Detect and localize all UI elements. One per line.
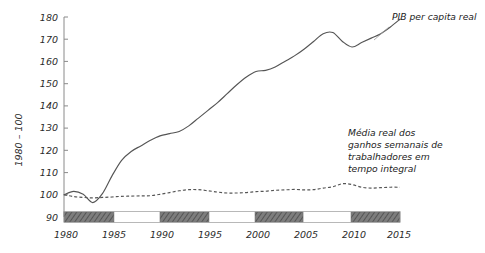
x-tick-label: 1985 [102,229,126,240]
recession-band [160,212,209,222]
recession-band [351,212,400,222]
x-tick-label: 2010 [342,229,366,240]
earnings-annotation-line: ganhos semanais de [348,139,443,150]
y-tick-label: 160 [40,56,58,67]
y-tick-marks [64,17,68,217]
earnings-annotation-line: trabalhadores em [348,151,430,162]
y-tick-labels: 180 170 160 150 140 130 120 110 100 90 [40,12,58,223]
gdp-annotation-leader [374,27,389,40]
x-tick-labels: 1980 1985 1990 1995 2000 2005 2010 2015 [54,229,411,240]
y-tick-label: 120 [40,145,58,156]
y-tick-label: 180 [40,12,58,23]
x-tick-label: 2015 [387,229,411,240]
recession-strip-frame [64,212,400,223]
gdp-annotation-label: PIB per capita real [392,11,477,22]
y-tick-label: 110 [40,167,58,178]
earnings-annotation-line: Média real dos [348,127,416,138]
y-axis-title: 1980 – 100 [13,113,24,166]
earnings-annotation-label: Média real dos ganhos semanais de trabal… [348,127,443,174]
y-tick-label: 100 [40,189,58,200]
x-tick-label: 2000 [246,229,270,240]
x-tick-label: 1980 [54,229,78,240]
x-tick-label: 1995 [198,229,222,240]
series-line-earnings [64,184,400,198]
line-chart: 1980 – 100 180 170 160 150 140 130 120 1… [0,0,485,253]
series-line-gdp [64,19,400,202]
recession-band [255,212,303,222]
chart-page: 1980 – 100 180 170 160 150 140 130 120 1… [0,0,485,253]
recession-band-strip [64,212,400,222]
y-tick-label: 150 [40,78,58,89]
y-tick-label: 130 [40,122,58,133]
y-tick-label: 90 [46,212,58,223]
y-tick-label: 140 [40,100,58,111]
x-tick-label: 1990 [150,229,174,240]
x-tick-label: 2005 [294,229,318,240]
earnings-annotation-line: tempo integral [348,163,416,174]
y-tick-label: 170 [40,34,58,45]
recession-band [64,212,114,222]
